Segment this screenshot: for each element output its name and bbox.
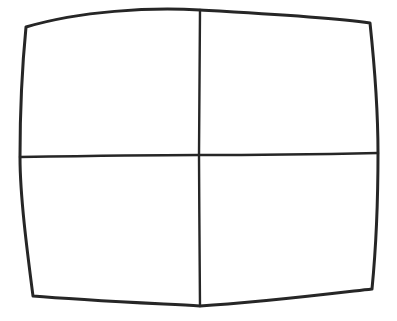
distorted-grid-figure — [0, 0, 397, 321]
figure-canvas — [0, 0, 397, 321]
vertical-divider-path — [199, 10, 200, 306]
